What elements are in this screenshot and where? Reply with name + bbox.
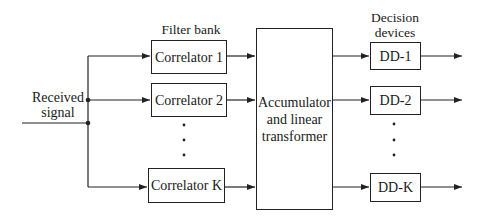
accumulator-box: Accumulator and linear transformer	[256, 28, 333, 210]
filter-bank-label: Filter bank	[150, 22, 232, 37]
ellipsis-dot	[183, 124, 186, 127]
ellipsis-dot	[393, 139, 396, 142]
decision-devices-label: Decision devices	[355, 10, 435, 40]
accumulator-line-2: and linear	[258, 111, 331, 128]
received-signal-label: Received signal	[28, 90, 88, 120]
ellipsis-dot	[393, 123, 396, 126]
received-signal-line-2: signal	[28, 105, 88, 120]
correlator-2-label: Correlator 2	[155, 92, 223, 109]
received-signal-line-1: Received	[28, 90, 88, 105]
ellipsis-dot	[183, 139, 186, 142]
decision-devices-label-line-1: Decision	[355, 10, 435, 25]
junction-dot	[86, 121, 91, 126]
decision-devices-label-line-2: devices	[355, 25, 435, 40]
ellipsis-dot	[393, 154, 396, 157]
dd-k-label: DD-K	[378, 179, 413, 196]
accumulator-line-1: Accumulator	[258, 94, 331, 111]
dd-2-label: DD-2	[380, 92, 412, 109]
dd-2-box: DD-2	[370, 86, 421, 115]
correlator-1-label: Correlator 1	[155, 49, 223, 66]
correlator-1-box: Correlator 1	[151, 40, 227, 74]
dd-k-box: DD-K	[370, 173, 421, 202]
accumulator-line-3: transformer	[258, 128, 331, 145]
correlator-k-label: Correlator K	[151, 177, 222, 194]
dd-1-box: DD-1	[370, 42, 421, 70]
correlator-2-box: Correlator 2	[151, 83, 227, 117]
dd-1-label: DD-1	[380, 48, 412, 65]
correlator-k-box: Correlator K	[148, 168, 225, 203]
ellipsis-dot	[183, 154, 186, 157]
